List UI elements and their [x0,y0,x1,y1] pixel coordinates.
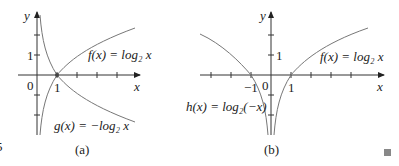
panel-a-caption: (a) [75,143,89,156]
panel-a-origin-label: 0 [27,79,34,92]
panel-b-f-label: f(x) = log₂ x [320,50,383,63]
figure-number-fragment: 5 [0,140,3,153]
end-of-example-mark [384,149,391,156]
panel-b-y-tick-1: 1 [276,49,283,62]
panel-a-g-curve [40,15,135,122]
panel-a-x-tick-1: 1 [54,81,61,94]
panel-b-x-axis-label: x [377,80,383,93]
panel-b-h-label: h(x) = log₂(−x) [186,100,267,113]
panel-b-x-tick-1: 1 [288,81,295,94]
panel-a-f-label: f(x) = log₂ x [88,48,151,61]
panel-b-x-tick-neg1: −1 [244,81,258,94]
panel-a-x-axis-label: x [134,80,140,93]
panel-a-y-tick-1: 1 [27,49,34,62]
panel-b-origin-label: 0 [262,79,269,92]
panel-a-g-label: g(x) = −log₂ x [54,119,129,132]
panel-b-caption: (b) [264,143,279,156]
panel-a-y-axis-label: y [24,9,30,22]
panel-b-y-axis-label: y [260,9,266,22]
